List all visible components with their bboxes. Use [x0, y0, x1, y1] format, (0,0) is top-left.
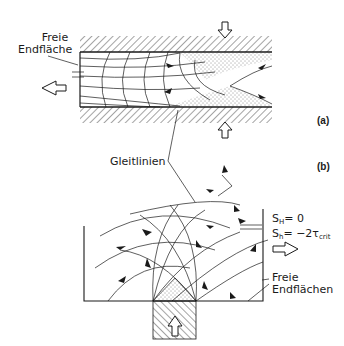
cond2-subscript-crit: crit [319, 233, 330, 241]
flow-arrow-left [42, 81, 66, 95]
compression-arrow-top [218, 22, 232, 38]
panel-a [42, 22, 272, 138]
panel-a-tag: (a) [317, 115, 329, 126]
slip-lines-leaders [168, 110, 195, 202]
cond2-symbol: S [272, 227, 279, 240]
condition-sh-tau: Sh= −2τcrit [272, 228, 330, 243]
label-free-face-2: Endfläche [18, 44, 72, 56]
compression-arrow-bottom [218, 122, 232, 138]
flow-arrow-right [273, 242, 298, 256]
panel-b-tag: (b) [317, 161, 330, 172]
label-free-faces-line2: Endflächen [272, 284, 333, 296]
dead-zone-upper [180, 53, 272, 80]
cond1-value: = 0 [284, 212, 304, 225]
label-free-face-line2: Endfläche [18, 44, 72, 56]
label-free-faces: Freie Endflächen [272, 272, 333, 296]
label-slip-lines: Gleitlinien [110, 156, 166, 168]
condition-sh-zero: SH= 0 [272, 213, 304, 228]
upper-die [80, 36, 272, 52]
shear-arrows-b [116, 165, 256, 299]
cond2-value: = −2τ [283, 227, 319, 240]
cond1-symbol: S [272, 212, 279, 225]
panel-b [84, 165, 298, 339]
